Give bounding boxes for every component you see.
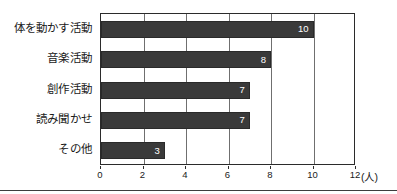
- x-tick-label: 10: [307, 169, 318, 180]
- category-axis-labels: 体を動かす活動音楽活動創作活動読み聞かせその他: [0, 13, 97, 165]
- x-tick-label: 4: [182, 169, 187, 180]
- bar-value-label: 7: [239, 116, 244, 126]
- horizontal-bar-chart: 体を動かす活動音楽活動創作活動読み聞かせその他 108773 024681012…: [0, 0, 397, 194]
- bar: 10: [101, 21, 314, 38]
- x-tick-label: 2: [140, 169, 145, 180]
- x-axis-unit-label: (人): [361, 169, 378, 184]
- bar-value-label: 3: [154, 146, 159, 156]
- plot-area: 108773: [100, 13, 355, 165]
- bar-value-label: 10: [298, 24, 309, 34]
- category-label: 音楽活動: [47, 51, 92, 66]
- category-label: 創作活動: [47, 82, 92, 97]
- x-axis: 024681012: [100, 166, 355, 180]
- bar-value-label: 8: [261, 55, 266, 65]
- bar: 7: [101, 82, 250, 99]
- bar: 3: [101, 142, 165, 159]
- x-tick-label: 8: [267, 169, 272, 180]
- category-label: 読み聞かせ: [36, 112, 92, 127]
- category-label: 体を動かす活動: [14, 21, 92, 36]
- bar: 7: [101, 112, 250, 129]
- x-tick-label: 12: [350, 169, 361, 180]
- bottom-divider: [0, 190, 397, 191]
- category-label: その他: [58, 142, 92, 157]
- x-tick-label: 0: [97, 169, 102, 180]
- bar: 8: [101, 51, 271, 68]
- bar-value-label: 7: [239, 85, 244, 95]
- gridline: [314, 14, 315, 164]
- x-tick-label: 6: [225, 169, 230, 180]
